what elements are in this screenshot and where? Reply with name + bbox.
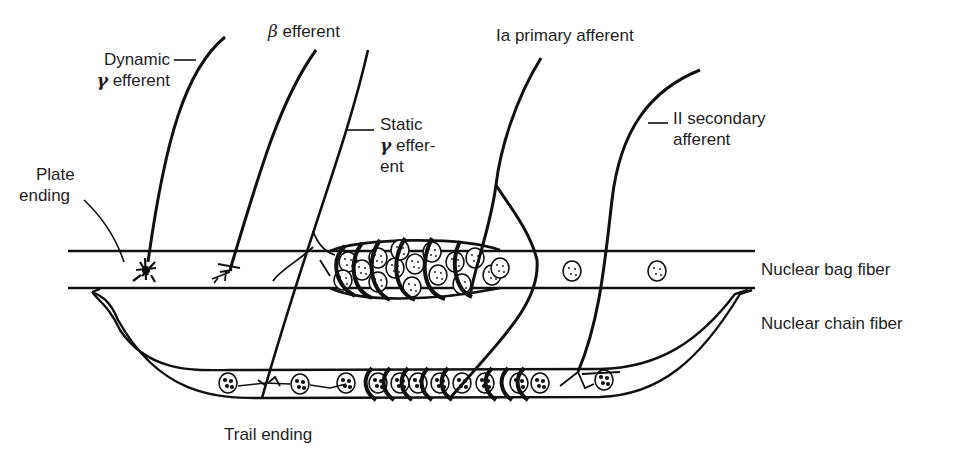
label-text: efferent (278, 22, 340, 41)
label-line: II secondary (673, 108, 766, 129)
label-beta-efferent: β efferent (268, 21, 340, 42)
ia-primary-afferent-axon (450, 58, 541, 398)
label-plate-ending: Plate ending (19, 164, 75, 206)
label-line: ending (19, 185, 75, 206)
label-ia-primary-afferent: Ia primary afferent (496, 25, 634, 46)
gamma-symbol: γ (97, 70, 108, 90)
label-ii-secondary-afferent: II secondary afferent (673, 108, 766, 150)
label-line: γ efferent (60, 70, 170, 91)
label-text: effer- (391, 136, 435, 155)
label-line: Static (380, 114, 435, 135)
gamma-symbol: γ (380, 135, 391, 155)
nuclear-bag-fiber (68, 238, 755, 300)
label-static-gamma-efferent: Static γ effer- ent (380, 114, 435, 177)
label-text: efferent (108, 71, 170, 90)
label-line: afferent (673, 129, 766, 150)
label-trail-ending: Trail ending (224, 424, 312, 445)
label-line: ent (380, 156, 435, 177)
static-gamma-efferent-axon (258, 50, 374, 398)
beta-symbol: β (268, 21, 278, 41)
label-nuclear-bag-fiber: Nuclear bag fiber (761, 259, 890, 280)
label-line: γ effer- (380, 135, 435, 156)
label-dynamic-gamma-efferent: Dynamic γ efferent (60, 49, 170, 91)
label-nuclear-chain-fiber: Nuclear chain fiber (761, 313, 903, 334)
label-line: Plate (19, 164, 75, 185)
beta-efferent-axon (212, 50, 316, 283)
label-line: Dynamic (60, 49, 170, 70)
nuclear-chain-fiber (92, 289, 752, 400)
plate-ending-icon (133, 258, 156, 282)
